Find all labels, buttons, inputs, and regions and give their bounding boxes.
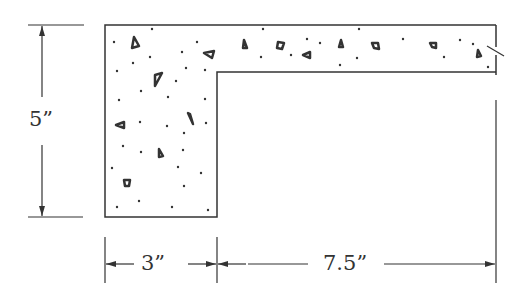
concrete-hatch-dots (111, 28, 489, 211)
web-width-dimension-label: 3” (138, 253, 168, 274)
l-section-drawing (0, 0, 524, 302)
concrete-hatch-aggregate (116, 37, 481, 186)
height-dimension-label: 5” (26, 109, 56, 130)
flange-extension-dimension-label: 7.5” (320, 253, 370, 274)
